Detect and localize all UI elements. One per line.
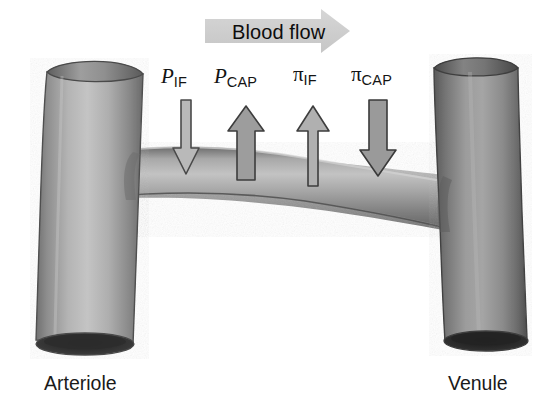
- force-label-pi-cap: πCAP: [351, 64, 392, 88]
- force-symbol: π: [351, 62, 362, 86]
- force-label-p-if: PIF: [161, 66, 187, 90]
- force-symbol: P: [214, 64, 227, 88]
- force-subscript: IF: [174, 74, 187, 90]
- force-arrow-pi-cap: [360, 100, 396, 176]
- force-label-pi-if: πIF: [293, 64, 317, 88]
- vessel-illustration: [0, 0, 559, 408]
- force-symbol: P: [161, 64, 174, 88]
- capillary-diagram-figure: Blood flow PIF PCAP πIF πCAP Arteriole V…: [0, 0, 559, 408]
- arteriole-vessel: [36, 61, 143, 355]
- blood-flow-label: Blood flow: [232, 21, 325, 44]
- force-symbol: π: [293, 62, 304, 86]
- force-subscript: IF: [304, 72, 317, 88]
- venule-label: Venule: [448, 372, 508, 395]
- force-label-p-cap: PCAP: [214, 66, 257, 90]
- venule-vessel: [434, 58, 528, 351]
- capillary-vessel: [95, 147, 470, 235]
- force-subscript: CAP: [227, 74, 257, 90]
- arteriole-label: Arteriole: [44, 372, 117, 395]
- force-subscript: CAP: [362, 72, 392, 88]
